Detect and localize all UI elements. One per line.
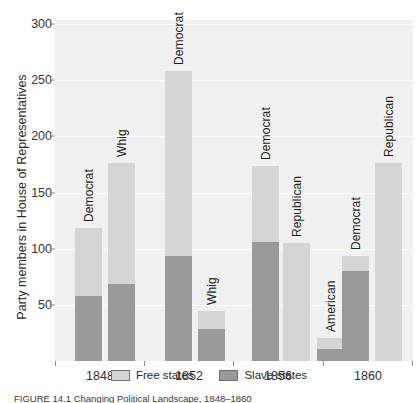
bar-label-whig: Whig (205, 277, 219, 305)
bar-label-whig: Whig (115, 129, 129, 157)
bar-1852-whig: Whig (198, 311, 225, 361)
legend-swatch-slave-states-icon (219, 370, 238, 381)
bar-1848-whig: Whig (108, 163, 135, 361)
legend-label-slave-states: Slave states (244, 369, 307, 381)
bar-1852-democrat: Democrat (165, 71, 192, 361)
bar-label-democrat: Democrat (172, 12, 186, 65)
legend-item-slave-states: Slave states (219, 369, 307, 381)
bar-segment-free-states (108, 163, 135, 284)
bar-segment-free-states (342, 256, 369, 271)
x-tick-mark-start (55, 361, 56, 366)
y-tick-mark-300 (50, 24, 55, 25)
gridline-300 (55, 24, 413, 25)
bar-segment-slave-states (75, 296, 102, 361)
figure-caption: FIGURE 14.1 Changing Political Landscape… (14, 393, 414, 403)
bar-segment-free-states (252, 166, 279, 242)
legend-item-free-states: Free states (111, 369, 194, 381)
bar-label-democrat: Democrat (349, 197, 363, 250)
y-tick-mark-50 (50, 305, 55, 306)
y-tick-mark-150 (50, 193, 55, 194)
bar-1856-democrat: Democrat (252, 166, 279, 361)
y-tick-mark-100 (50, 249, 55, 250)
x-tick-mark-1 (144, 361, 145, 366)
bar-label-republican: Republican (290, 176, 304, 237)
chart-legend: Free states Slave states (0, 369, 418, 381)
bar-segment-slave-states (342, 271, 369, 361)
bar-label-democrat: Democrat (259, 107, 273, 160)
bar-segment-slave-states (198, 329, 225, 361)
bar-1856-republican: Republican (283, 243, 310, 361)
gridline-250 (55, 80, 413, 81)
y-tick-label-300: 300 (0, 17, 52, 31)
bar-label-democrat: Democrat (82, 169, 96, 222)
x-tick-mark-3 (323, 361, 324, 366)
figure-container: Democrat Whig Democrat Whig Democrat Rep… (0, 0, 418, 403)
bar-1856-american: American (317, 338, 344, 361)
bar-segment-free-states (283, 243, 310, 361)
legend-label-free-states: Free states (136, 369, 194, 381)
bar-segment-slave-states (252, 242, 279, 361)
bar-segment-slave-states (317, 349, 344, 361)
y-axis-title: Party members in House of Representative… (15, 57, 29, 337)
bar-segment-free-states (375, 163, 402, 361)
plot-area: Democrat Whig Democrat Whig Democrat Rep… (55, 20, 413, 361)
bar-label-american: American (324, 281, 338, 332)
bar-segment-free-states (165, 71, 192, 256)
legend-swatch-free-states-icon (111, 370, 130, 381)
x-tick-mark-2 (233, 361, 234, 366)
bar-segment-slave-states (165, 256, 192, 361)
y-tick-mark-250 (50, 80, 55, 81)
bar-label-republican: Republican (382, 96, 396, 157)
bar-1848-democrat: Democrat (75, 228, 102, 361)
y-axis: 300 250 200 150 100 50 Party members in … (0, 0, 52, 403)
y-tick-mark-200 (50, 136, 55, 137)
bar-segment-free-states (75, 228, 102, 296)
bar-1860-democrat: Democrat (342, 256, 369, 361)
bar-1860-republican: Republican (375, 163, 402, 361)
bar-segment-slave-states (108, 284, 135, 361)
bar-segment-free-states (198, 311, 225, 329)
gridline-200 (55, 136, 413, 137)
x-tick-mark-end (412, 361, 413, 366)
bar-segment-free-states (317, 338, 344, 349)
